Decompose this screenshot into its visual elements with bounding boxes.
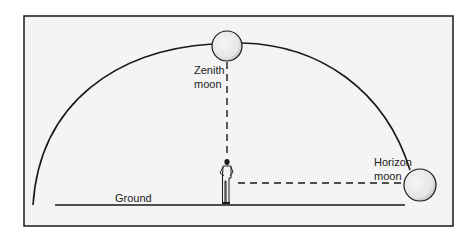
zenith-moon bbox=[212, 31, 242, 61]
moon-illusion-diagram: Zenith moon Horizon moon Ground bbox=[0, 0, 474, 241]
ground-label: Ground bbox=[115, 192, 152, 204]
horizon-moon bbox=[404, 169, 436, 201]
zenith-moon-label-line1: Zenith bbox=[194, 64, 225, 76]
horizon-moon-label-line1: Horizon bbox=[374, 156, 412, 168]
zenith-moon-label-line2: moon bbox=[194, 78, 222, 90]
horizon-moon-label-line2: moon bbox=[374, 170, 402, 182]
